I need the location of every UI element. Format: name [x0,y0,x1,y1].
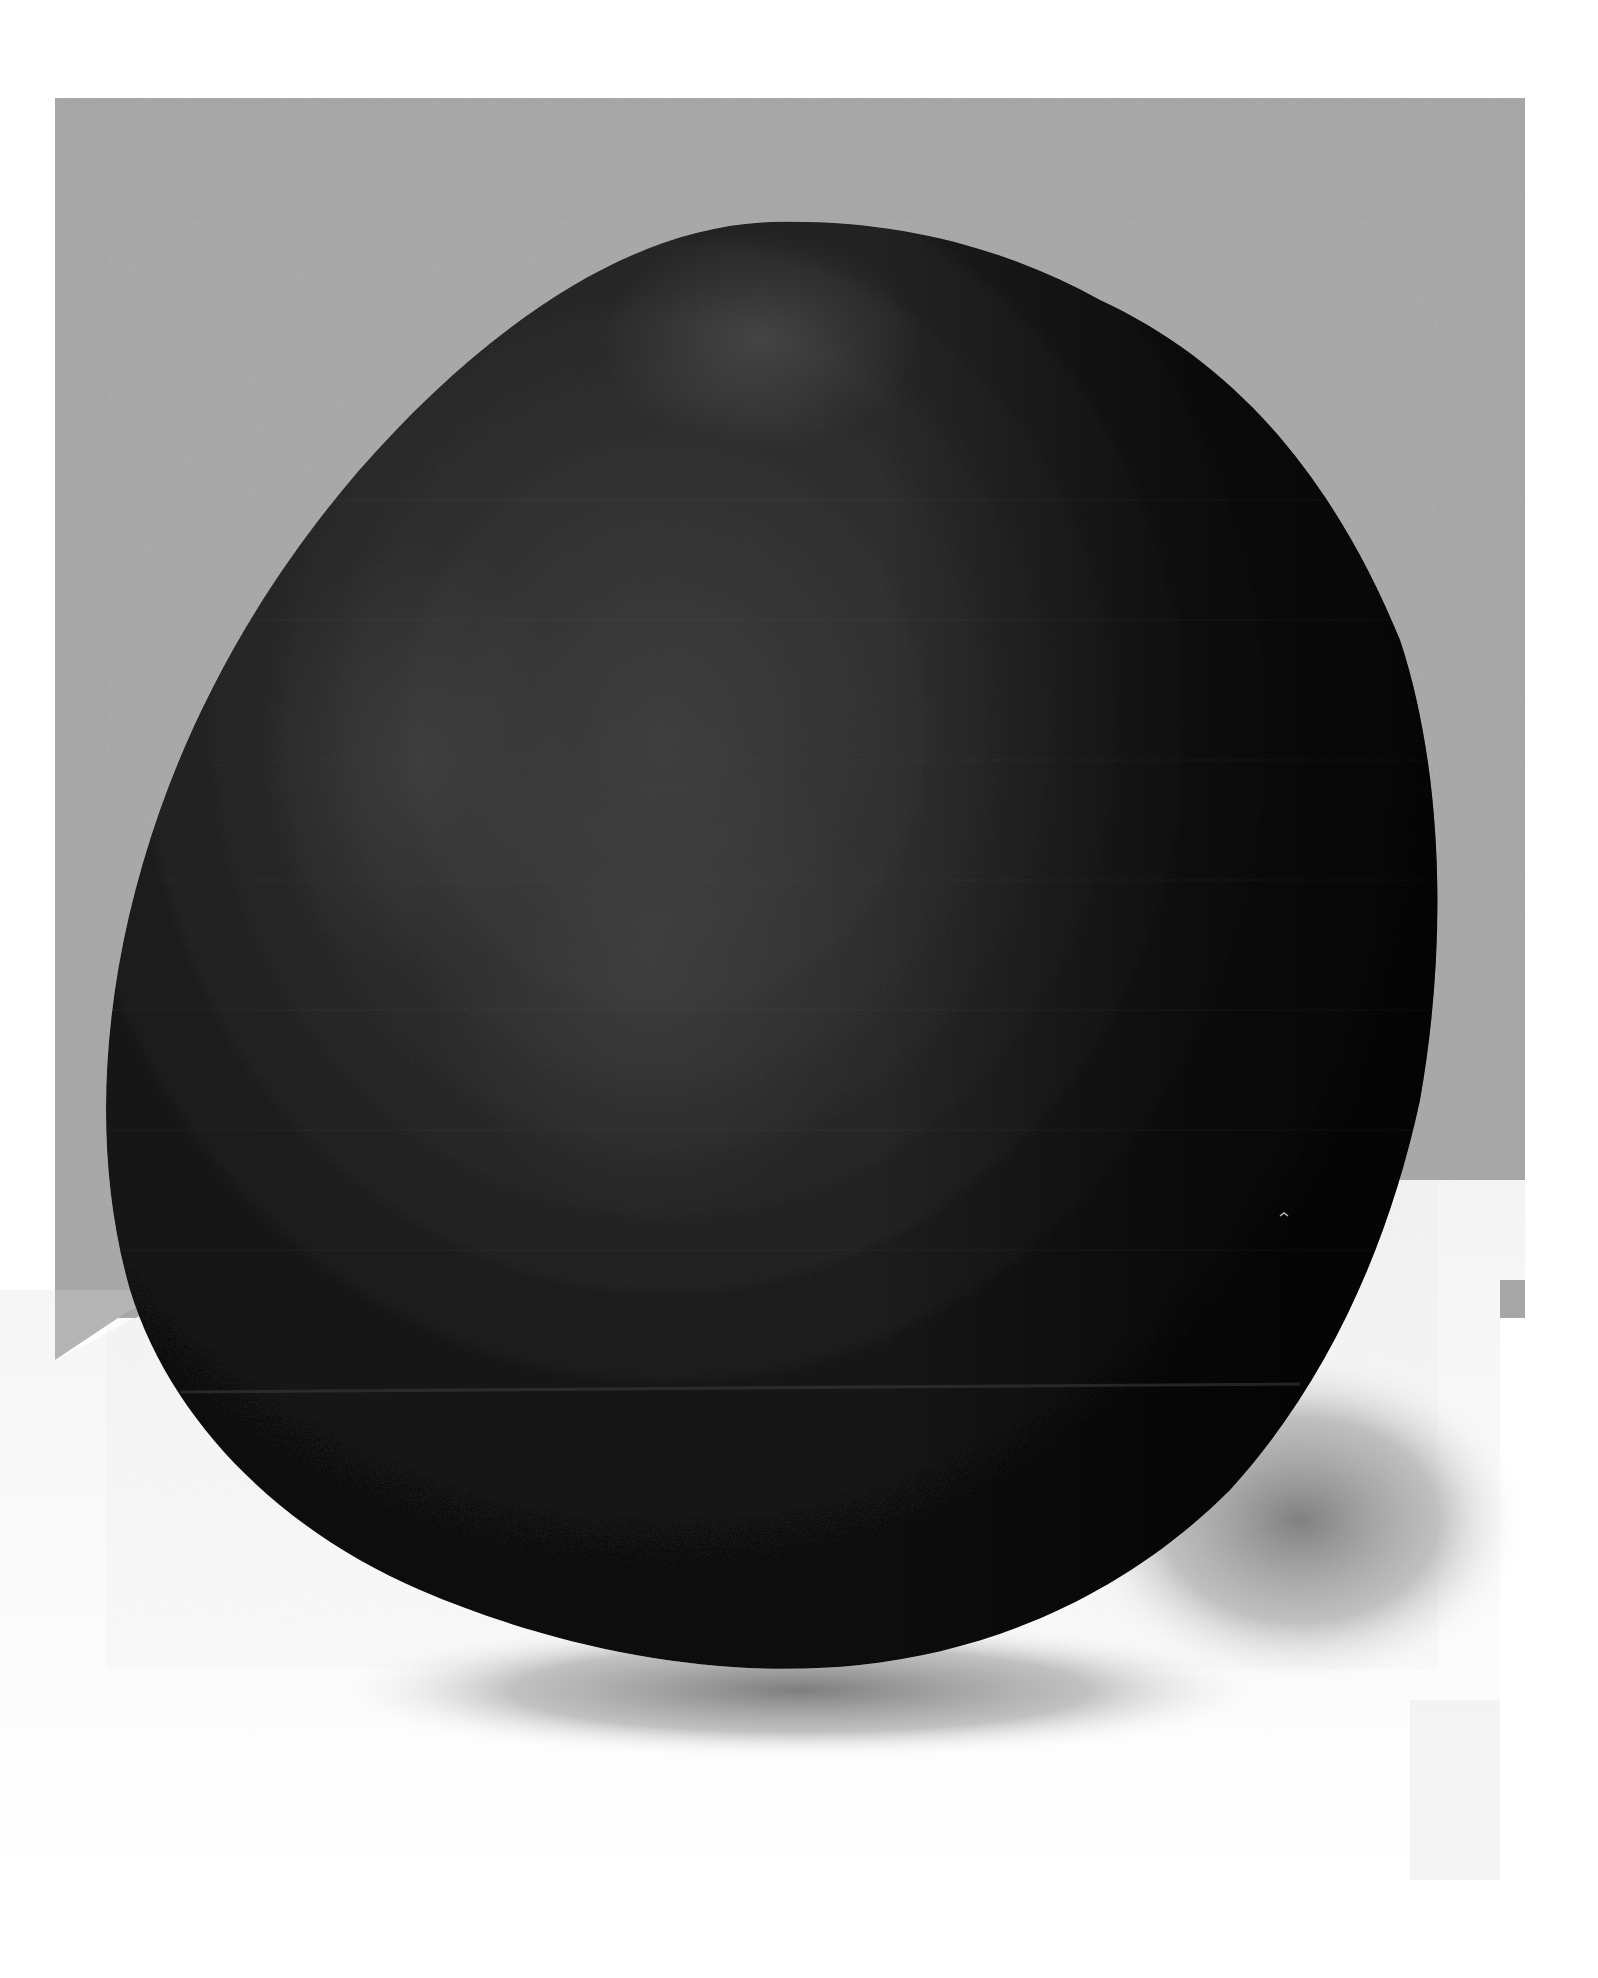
floor-right-panel [1410,1700,1500,1880]
form-highlight-top [600,230,920,450]
painting-svg [0,0,1598,1978]
painting-canvas [0,0,1598,1978]
